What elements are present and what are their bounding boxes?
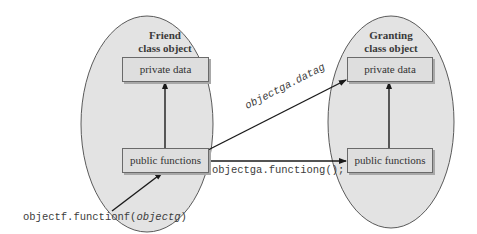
granting-class-title: Granting class object xyxy=(331,29,451,55)
friend-title-line1: Friend xyxy=(105,29,225,42)
entry-call-suffix: ) xyxy=(181,211,187,223)
granting-public-functions-box: public functions xyxy=(347,148,433,173)
entry-call-arg: objectg xyxy=(136,211,180,223)
granting-private-data-box: private data xyxy=(347,57,433,82)
granting-title-line2: class object xyxy=(331,42,451,55)
friend-public-functions-box: public functions xyxy=(122,148,209,173)
granting-title-line1: Granting xyxy=(331,29,451,42)
friend-class-title: Friend class object xyxy=(105,29,225,55)
entry-call-label: objectf.functionf(objectg) xyxy=(23,211,187,223)
function-call-label: objectga.functiong(); xyxy=(212,164,344,176)
friend-private-data-box: private data xyxy=(122,57,209,82)
entry-call-prefix: objectf.functionf( xyxy=(23,211,136,223)
friend-title-line2: class object xyxy=(105,42,225,55)
function-call-text: objectga.functiong(); xyxy=(212,164,344,176)
